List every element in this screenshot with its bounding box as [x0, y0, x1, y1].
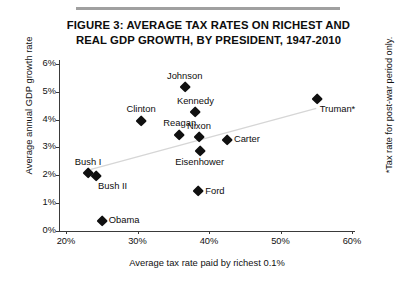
y-tick-label: 2% — [31, 170, 56, 180]
x-tick-mark — [138, 231, 139, 234]
x-tick-mark — [281, 231, 282, 234]
x-tick-label: 20% — [46, 236, 86, 246]
y-tick-mark — [56, 175, 59, 176]
x-tick-label: 60% — [332, 236, 372, 246]
data-point-label: Eisenhower — [175, 157, 224, 167]
y-tick-text: 6% — [34, 59, 56, 68]
data-point-label: Nixon — [187, 121, 211, 131]
y-axis-title: Average annual GDP growth rate — [23, 16, 34, 196]
y-tick-text: 1% — [34, 198, 56, 207]
y-tick-mark — [56, 92, 59, 93]
y-tick-mark — [56, 147, 59, 148]
y-tick-text: 3% — [34, 142, 56, 151]
y-tick-label: 4% — [31, 115, 56, 125]
data-point-label: Bush II — [98, 181, 127, 191]
data-point-label: Bush I — [75, 157, 102, 167]
x-tick-label: 50% — [261, 236, 301, 246]
scatter-plot: 0%1%2%3%4%5%6% 20%30%40%50%60% ObamaBush… — [0, 0, 417, 287]
y-tick-mark — [56, 64, 59, 65]
data-point-label: Truman* — [320, 104, 356, 114]
y-tick-label: 0% — [31, 226, 56, 236]
y-tick-mark — [56, 120, 59, 121]
y-tick-text: 2% — [34, 170, 56, 179]
data-point-label: Kennedy — [177, 96, 214, 106]
x-axis-title: Average tax rate paid by richest 0.1% — [59, 257, 355, 268]
footnote: *Tax rate for post-war period only. — [384, 15, 394, 195]
y-tick-text: 4% — [34, 115, 56, 124]
y-tick-text: 0% — [34, 226, 56, 235]
data-point-label: Carter — [234, 134, 260, 144]
y-tick-mark — [56, 203, 59, 204]
x-tick-label: 40% — [189, 236, 229, 246]
x-tick-mark — [352, 231, 353, 234]
y-tick-label: 6% — [31, 59, 56, 69]
data-point-label: Ford — [205, 186, 224, 196]
data-point-label: Johnson — [167, 71, 202, 81]
x-tick-mark — [209, 231, 210, 234]
y-tick-mark — [56, 231, 59, 232]
y-tick-label: 1% — [31, 198, 56, 208]
data-point-label: Obama — [109, 215, 140, 225]
y-tick-label: 5% — [31, 87, 56, 97]
y-tick-text: 5% — [34, 87, 56, 96]
x-tick-label: 30% — [118, 236, 158, 246]
data-point-label: Clinton — [126, 104, 155, 114]
x-tick-mark — [66, 231, 67, 234]
y-tick-label: 3% — [31, 142, 56, 152]
